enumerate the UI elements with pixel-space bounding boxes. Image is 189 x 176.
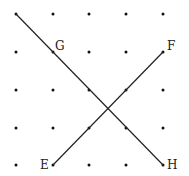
label-h: H: [167, 158, 177, 172]
grid-dot: [125, 164, 128, 167]
line-through-G-to-H: [16, 14, 163, 165]
grid-dot: [15, 164, 18, 167]
grid-dot: [15, 127, 18, 130]
grid-dot: [88, 164, 91, 167]
grid-dot: [52, 127, 55, 130]
label-f: F: [167, 39, 175, 53]
grid-dot: [88, 51, 91, 54]
grid-dot: [162, 89, 165, 92]
grid-dot: [162, 127, 165, 130]
grid-dot: [15, 89, 18, 92]
grid-dot: [88, 13, 91, 16]
grid-dot: [125, 51, 128, 54]
label-e: E: [40, 158, 49, 172]
grid-dot: [162, 13, 165, 16]
grid-dot: [125, 13, 128, 16]
dot-grid-diagram: G F E H: [0, 0, 189, 176]
grid-dot: [52, 89, 55, 92]
label-g: G: [55, 39, 65, 53]
grid-dot: [52, 13, 55, 16]
grid-dot: [15, 51, 18, 54]
line-segments: [16, 14, 163, 165]
